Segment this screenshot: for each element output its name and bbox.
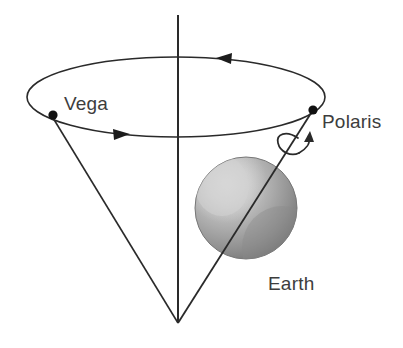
polaris-label: Polaris <box>322 111 381 132</box>
cone-edge-icon-left <box>50 113 178 323</box>
sphere-terminator-icon <box>195 156 249 216</box>
vega-label: Vega <box>64 93 108 114</box>
curved-rotation-arrow-icon <box>278 131 314 154</box>
arrow-left-icon <box>216 53 232 64</box>
earth-label: Earth <box>268 273 314 294</box>
star-dot-icon-vega <box>48 110 57 119</box>
arrow-right-icon <box>113 129 130 140</box>
earth-sphere-group <box>195 156 322 290</box>
precession-diagram: Vega Polaris Earth <box>0 0 403 348</box>
diagram-canvas: Vega Polaris Earth <box>0 0 403 348</box>
star-dot-icon-polaris <box>308 105 317 114</box>
